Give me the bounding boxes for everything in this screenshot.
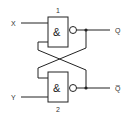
gate-1-inverter-bubble — [70, 27, 77, 34]
junction-dot-qbar — [84, 86, 87, 89]
gate-2-symbol: & — [53, 82, 61, 94]
input-y-label: Y — [11, 94, 16, 101]
gate-2-label: 2 — [56, 106, 60, 113]
output-q-label: Q — [115, 27, 121, 35]
output-qbar-label: Q̅ — [115, 85, 121, 93]
gate-2-inverter-bubble — [70, 85, 77, 92]
junction-dot-q — [84, 28, 87, 31]
gate-1-symbol: & — [53, 26, 61, 38]
latch-diagram: & & 1 2 X Y Q Q̅ — [0, 0, 130, 119]
gate-1-label: 1 — [56, 7, 60, 14]
input-x-label: X — [11, 20, 16, 27]
feedback-q-to-gate2 — [38, 30, 86, 78]
